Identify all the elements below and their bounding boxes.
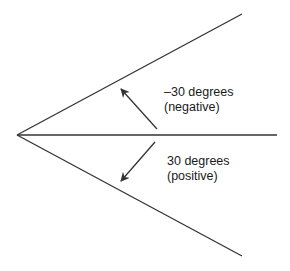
positive-rotation-arrow-icon bbox=[121, 142, 155, 181]
angle-diagram: –30 degrees (negative) 30 degrees (posit… bbox=[0, 0, 290, 271]
upper-ray-line bbox=[17, 14, 242, 135]
negative-angle-label: –30 degrees (negative) bbox=[164, 85, 234, 114]
positive-angle-label: 30 degrees (positive) bbox=[167, 154, 230, 183]
negative-rotation-arrow-icon bbox=[121, 89, 157, 129]
negative-angle-caption: (negative) bbox=[164, 100, 220, 114]
negative-angle-value: –30 degrees bbox=[164, 85, 234, 99]
positive-angle-value: 30 degrees bbox=[167, 154, 230, 168]
positive-angle-caption: (positive) bbox=[167, 169, 218, 183]
